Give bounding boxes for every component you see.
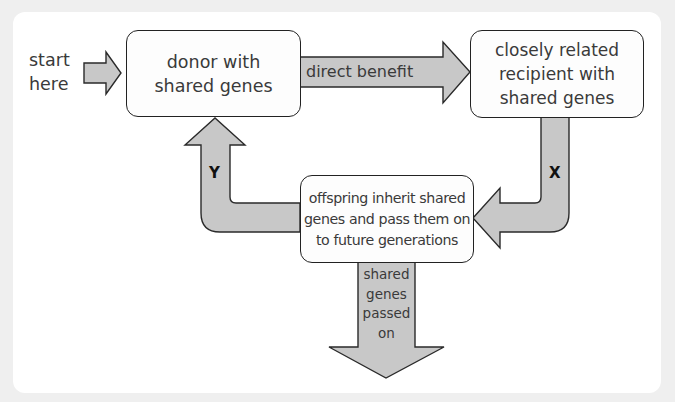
start-arrow-icon — [84, 52, 121, 94]
x-arrow-icon — [473, 117, 569, 248]
direct-benefit-label: direct benefit — [306, 60, 413, 84]
start-here-label: start here — [29, 48, 70, 96]
y-arrow-icon — [185, 118, 300, 232]
shared-genes-passed-on-label: shared genes passed on — [358, 265, 415, 343]
offspring-node-text: offspring inherit shared genes and pass … — [304, 188, 470, 251]
donor-node-text: donor with shared genes — [154, 50, 272, 98]
y-label: Y — [209, 164, 220, 182]
x-label: X — [549, 164, 561, 182]
offspring-node: offspring inherit shared genes and pass … — [300, 175, 474, 263]
donor-node: donor with shared genes — [126, 30, 301, 117]
recipient-node: closely related recipient with shared ge… — [470, 30, 644, 118]
recipient-node-text: closely related recipient with shared ge… — [495, 38, 619, 110]
